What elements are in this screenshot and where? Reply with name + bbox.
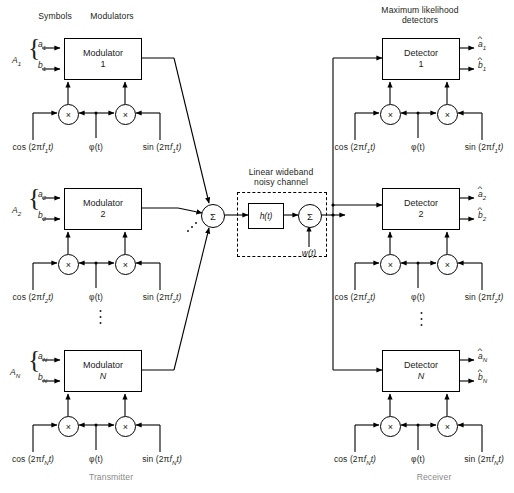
detector-block-n[interactable]: Detector N: [382, 350, 460, 392]
detector-index-1: 1: [418, 59, 423, 70]
multiplier-icon-rx2-q: ×: [437, 254, 458, 275]
multiplier-icon-tx2-i: ×: [58, 254, 79, 275]
summer-input-ellipsis: [187, 222, 199, 234]
detector-index-2: 2: [418, 209, 423, 220]
detector-output-b1: b1: [478, 61, 486, 72]
symbol-group-label-n: AN: [10, 368, 20, 379]
phase-label-rx1: φ(t): [411, 143, 425, 153]
modulator-title-2: Modulator: [83, 198, 123, 209]
detector-output-a2: a2: [478, 190, 486, 201]
cos-label-rx1: cos (2πf1t): [334, 143, 375, 154]
header-symbols: Symbols: [38, 12, 72, 22]
symbol-group-label-1: A1: [12, 56, 21, 67]
phase-label-rx2: φ(t): [411, 293, 425, 303]
cos-label-tx2: cos (2πf2t): [12, 293, 53, 304]
modulator-index-1: 1: [100, 59, 105, 70]
detector-title-1: Detector: [404, 48, 438, 59]
sin-label-rx1: sin (2πf1t): [465, 143, 504, 154]
phase-label-tx2: φ(t): [89, 293, 103, 303]
symbol-input-an: aN: [38, 352, 47, 363]
detector-output-bn: bN: [478, 373, 487, 384]
sin-label-txn: sin (2πfNt): [142, 455, 182, 466]
modulator-index-n: N: [100, 371, 107, 382]
cos-label-tx1: cos (2πf1t): [12, 143, 53, 154]
detector-index-n: N: [418, 371, 425, 382]
modulator-index-2: 2: [100, 209, 105, 220]
multiplier-icon-txn-q: ×: [115, 416, 136, 437]
multiplier-icon-tx1-i: ×: [58, 104, 79, 125]
multiplier-icon-tx1-q: ×: [115, 104, 136, 125]
channel-summer: Σ: [298, 204, 322, 228]
phase-label-txn: φ(t): [89, 455, 103, 465]
caption-transmitter: Transmitter: [89, 473, 133, 483]
cos-label-rx2: cos (2πf2t): [334, 293, 375, 304]
multiplier-icon-rxn-q: ×: [437, 416, 458, 437]
sin-label-tx2: sin (2πf2t): [143, 293, 182, 304]
header-detectors-line2: detectors: [402, 16, 438, 26]
symbol-group-label-2: A2: [12, 206, 21, 217]
detector-title-n: Detector: [404, 360, 438, 371]
multiplier-icon-tx2-q: ×: [115, 254, 136, 275]
phase-label-rxn: φ(t): [411, 455, 425, 465]
sin-label-rxn: sin (2πfNt): [464, 455, 504, 466]
detector-output-b2: b2: [478, 211, 486, 222]
symbol-input-b1: b1: [38, 61, 46, 72]
multiplier-icon-txn-i: ×: [58, 416, 79, 437]
multiplier-icon-rxn-i: ×: [380, 416, 401, 437]
modulator-title-n: Modulator: [83, 360, 123, 371]
cos-label-rxn: cos (2πfNt): [334, 455, 376, 466]
header-channel-line2: noisy channel: [254, 178, 308, 188]
channel-filter-block[interactable]: h(t): [248, 203, 284, 229]
modulator-title-1: Modulator: [83, 48, 123, 59]
modulator-ellipsis: [99, 306, 102, 328]
multiplier-icon-rx2-i: ×: [380, 254, 401, 275]
caption-receiver: Receiver: [417, 473, 452, 483]
detector-output-an: aN: [478, 352, 487, 363]
modulator-block-1[interactable]: Modulator 1: [64, 38, 142, 80]
symbol-input-a1: a1: [38, 40, 46, 51]
phase-label-tx1: φ(t): [89, 143, 103, 153]
transmitter-summer: Σ: [201, 204, 225, 228]
multiplier-icon-rx1-i: ×: [380, 104, 401, 125]
block-diagram-canvas: Symbols Modulators Linear wideband noisy…: [0, 0, 514, 493]
sin-label-rx2: sin (2πf2t): [465, 293, 504, 304]
symbol-input-bn: bN: [38, 373, 47, 384]
modulator-block-n[interactable]: Modulator N: [64, 350, 142, 392]
symbol-input-a2: a2: [38, 190, 46, 201]
sin-label-tx1: sin (2πf1t): [143, 143, 182, 154]
detector-block-2[interactable]: Detector 2: [382, 188, 460, 230]
multiplier-icon-rx1-q: ×: [437, 104, 458, 125]
header-modulators: Modulators: [90, 12, 134, 22]
detector-title-2: Detector: [404, 198, 438, 209]
detector-output-a1: a1: [478, 40, 486, 51]
symbol-input-b2: b2: [38, 211, 46, 222]
detector-block-1[interactable]: Detector 1: [382, 38, 460, 80]
cos-label-txn: cos (2πfNt): [12, 455, 54, 466]
noise-label: w(t): [302, 249, 317, 259]
modulator-block-2[interactable]: Modulator 2: [64, 188, 142, 230]
detector-ellipsis: [420, 308, 423, 330]
